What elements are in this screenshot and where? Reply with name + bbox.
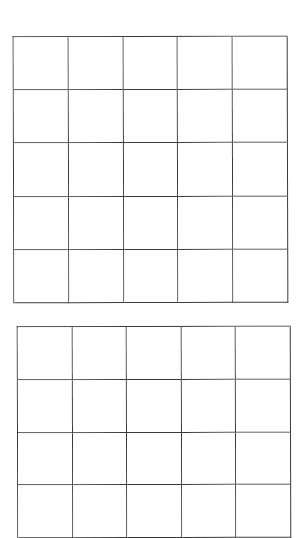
grid-cell: [179, 250, 234, 303]
grid-cell: [69, 197, 124, 250]
grid-cell: [182, 327, 237, 380]
grid-cell: [72, 327, 127, 380]
grid-cell: [124, 197, 179, 250]
grid-cell: [233, 249, 288, 302]
grid-cell: [14, 144, 69, 197]
grid-cell: [233, 196, 288, 249]
grid-cell: [124, 143, 179, 196]
grid-cell: [127, 380, 182, 433]
grid-cell: [18, 327, 73, 380]
empty-grid-partial: [17, 326, 292, 538]
grid-cell: [182, 432, 237, 485]
grid-cell: [182, 485, 237, 538]
grid-cell: [123, 37, 178, 90]
grid-cell: [72, 380, 127, 433]
grid-cell: [18, 485, 73, 538]
grid-cell: [123, 90, 178, 143]
grid-cell: [69, 143, 124, 196]
grid-cell: [236, 432, 291, 485]
grid-cell: [14, 37, 69, 90]
grid-cell: [127, 485, 182, 538]
grid-cell: [18, 433, 73, 486]
grid-cell: [182, 380, 237, 433]
grid-cell: [178, 143, 233, 196]
grid-cell: [73, 485, 128, 538]
grid-cell: [14, 197, 69, 250]
grid-cell: [69, 90, 124, 143]
grid-cell: [124, 250, 179, 303]
grid-cell: [14, 250, 69, 303]
grid-cell: [178, 90, 233, 143]
cropped-top-text-fragment: [46, 0, 86, 2]
grid-cell: [69, 250, 124, 303]
grid-cell: [68, 37, 123, 90]
grid-cell: [233, 37, 288, 90]
grid-cell: [73, 433, 128, 486]
grid-cell: [236, 327, 291, 380]
grid-cell: [237, 485, 292, 538]
grid-cell: [233, 90, 288, 143]
grid-cell: [178, 37, 233, 90]
grid-cell: [127, 432, 182, 485]
grid-cell: [233, 143, 288, 196]
empty-grid-5x5: [13, 36, 289, 304]
grid-cell: [178, 196, 233, 249]
grid-cell: [127, 327, 182, 380]
grid-cell: [236, 379, 291, 432]
grid-cell: [18, 380, 73, 433]
grid-cell: [14, 90, 69, 143]
